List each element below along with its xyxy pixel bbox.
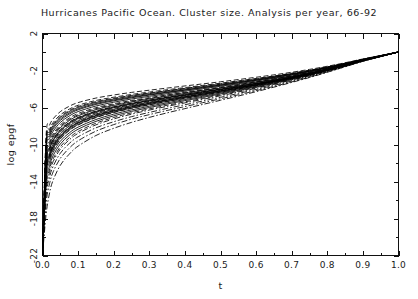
y-tick-label: -6 — [29, 103, 39, 113]
curve-1969 — [43, 52, 399, 256]
curve-1970 — [43, 52, 399, 256]
curve-1972 — [43, 52, 399, 256]
curve-1971 — [43, 52, 399, 256]
data-curves — [43, 52, 399, 256]
x-axis-tick-labels: 0.00.10.20.30.40.50.60.70.80.91.0 — [35, 260, 406, 270]
curve-1973 — [43, 52, 399, 256]
curve-1990 — [43, 52, 399, 256]
curve-1982 — [43, 52, 399, 256]
x-axis-title: t — [218, 280, 222, 291]
curve-1992 — [43, 52, 399, 256]
curve-1989 — [43, 52, 399, 256]
y-tick-label: -2 — [29, 66, 39, 76]
y-tick-label: -14 — [29, 174, 39, 190]
x-tick-label: 0.3 — [142, 260, 157, 270]
y-axis-tick-labels: 2-2-6-10-14-18-22 — [29, 30, 39, 263]
x-tick-label: 0.7 — [284, 260, 299, 270]
chart-figure: Hurricanes Pacific Ocean. Cluster size. … — [0, 0, 418, 299]
y-tick-label: 2 — [29, 30, 39, 36]
x-tick-label: 0.9 — [355, 260, 370, 270]
x-tick-label: 0.6 — [248, 260, 263, 270]
curve-1979 — [43, 52, 399, 256]
x-tick-label: 1.0 — [391, 260, 406, 270]
curve-1977 — [43, 52, 399, 256]
curve-1980 — [43, 52, 399, 256]
curve-1968 — [43, 52, 399, 256]
curve-1986 — [43, 52, 399, 256]
curve-1987 — [43, 52, 399, 256]
curve-1983 — [43, 52, 399, 256]
curve-1985 — [43, 52, 399, 256]
curve-1976 — [43, 52, 399, 256]
curve-1974 — [43, 52, 399, 256]
y-tick-label: -10 — [29, 137, 39, 153]
curve-1978 — [43, 52, 399, 256]
curve-1991 — [43, 52, 399, 256]
curve-1966 — [43, 52, 399, 256]
x-tick-label: 0.5 — [213, 260, 228, 270]
curve-1984 — [43, 52, 399, 256]
x-tick-label: 0.4 — [177, 260, 192, 270]
x-tick-label: 0.8 — [320, 260, 335, 270]
curve-1988 — [43, 52, 399, 256]
x-tick-label: 0.1 — [70, 260, 85, 270]
curve-1981 — [43, 52, 399, 256]
plot-area: 0.00.10.20.30.40.50.60.70.80.91.0 2-2-6-… — [0, 0, 418, 299]
y-axis-title: log epgf — [5, 123, 16, 165]
curve-1975 — [43, 52, 399, 256]
y-tick-label: -18 — [29, 211, 39, 227]
x-tick-label: 0.2 — [106, 260, 121, 270]
curve-1967 — [43, 52, 399, 256]
y-tick-label: -22 — [29, 248, 39, 264]
